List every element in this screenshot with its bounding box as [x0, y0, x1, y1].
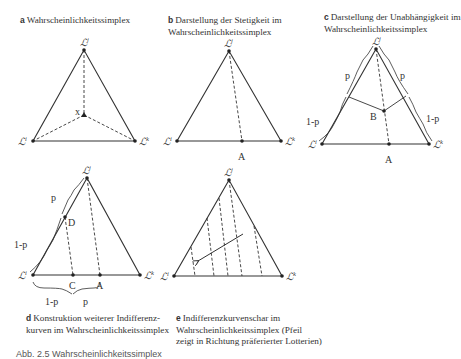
panel-d-point-c: C	[69, 280, 76, 291]
panel-c-vertex-k: ℒk	[433, 138, 443, 150]
panel-c-point-b: B	[370, 111, 377, 122]
panel-d-p-left: p	[51, 192, 56, 203]
panel-c-vertex-i: ℒi	[308, 138, 317, 150]
panel-a-simplex	[33, 50, 135, 141]
figure-footer: Abb. 2.5 Wahrscheinlichkeitssimplex	[16, 349, 162, 359]
panel-c-vertex-j: ℒj	[372, 35, 381, 47]
panel-d-points	[31, 176, 142, 277]
panel-d-p-bottom: p	[83, 296, 88, 307]
panel-d-1mp-bottom: 1-p	[45, 296, 58, 307]
panel-c-simplex	[319, 46, 432, 144]
panel-b-vertex-i: ℒi	[163, 135, 172, 147]
panel-e-vertex-j: ℒj	[224, 166, 233, 178]
panel-b-points	[175, 49, 283, 143]
panel-d-point-d: D	[68, 217, 75, 228]
panel-d-simplex	[30, 178, 140, 294]
panel-a-vertex-i: ℒi	[18, 135, 27, 147]
panel-d-1mp-left: 1-p	[14, 239, 27, 250]
panel-a-vertex-k: ℒk	[139, 135, 149, 147]
panel-e-preference-arrow	[198, 234, 243, 261]
panel-c-1mp-left: 1-p	[306, 116, 319, 127]
panel-b-simplex	[177, 51, 281, 141]
panel-b-point-a: A	[238, 151, 246, 162]
panel-d-vertex-j: ℒj	[82, 164, 91, 176]
panel-e-points	[172, 178, 284, 278]
panel-e-vertex-k: ℒk	[286, 270, 296, 282]
panel-b-vertex-j: ℒj	[224, 37, 233, 49]
panel-c-points	[320, 47, 431, 146]
panel-c-p-left: p	[345, 70, 350, 81]
panel-e-simplex	[174, 180, 282, 276]
panel-a-x-label: x	[75, 106, 80, 117]
panel-c-p-right: p	[400, 70, 405, 81]
panel-b-vertex-k: ℒk	[285, 135, 295, 147]
panel-c-1mp-right: 1-p	[426, 113, 439, 124]
panel-d-vertex-k: ℒk	[144, 269, 154, 281]
panel-d-vertex-i: ℒi	[18, 269, 27, 281]
panel-c-point-a: A	[385, 154, 393, 165]
panel-a-vertex-j: ℒj	[80, 36, 89, 48]
panel-e-vertex-i: ℒi	[160, 270, 169, 282]
panel-d-point-a: A	[96, 280, 104, 291]
